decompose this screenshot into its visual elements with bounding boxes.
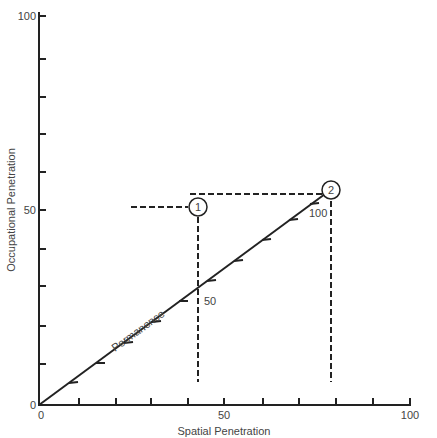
x-axis-title: Spatial Penetration <box>178 425 271 437</box>
point-2-label: 2 <box>328 184 334 196</box>
y-tick-label-50: 50 <box>24 204 36 216</box>
point-2-marker: 2 <box>322 181 340 199</box>
x-tick-label-0: 0 <box>38 409 44 421</box>
permanence-diagram: 100 50 0 0 50 100 Spatial Penetration Oc… <box>0 0 437 438</box>
y-tick-label-100: 100 <box>18 10 36 22</box>
y-tick-label-0: 0 <box>30 399 36 411</box>
y-axis-title: Occupational Penetration <box>5 148 17 272</box>
point-2-projections <box>190 194 331 382</box>
point-1-label: 1 <box>195 201 201 213</box>
x-axis-ticks <box>79 398 410 405</box>
scale-label-50: 50 <box>204 295 216 307</box>
y-axis-ticks <box>39 16 46 364</box>
scale-label-100: 100 <box>309 207 327 219</box>
permanence-line <box>39 194 325 405</box>
point-1-marker: 1 <box>189 198 207 216</box>
x-tick-label-100: 100 <box>401 409 419 421</box>
permanence-label: Permanence <box>109 307 167 353</box>
x-tick-label-50: 50 <box>218 409 230 421</box>
